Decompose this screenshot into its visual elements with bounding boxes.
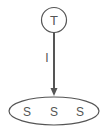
group-item-label: S bbox=[76, 105, 84, 119]
diagram-canvas: T I S S S bbox=[0, 0, 107, 136]
arrowhead-icon bbox=[51, 88, 58, 96]
group-node: S S S bbox=[9, 97, 99, 125]
group-item-label: S bbox=[50, 105, 58, 119]
group-item-label: S bbox=[23, 105, 31, 119]
edge-label: I bbox=[45, 51, 48, 65]
top-node-label: T bbox=[50, 13, 58, 28]
edge: I bbox=[45, 33, 57, 97]
top-node: T bbox=[42, 8, 67, 33]
